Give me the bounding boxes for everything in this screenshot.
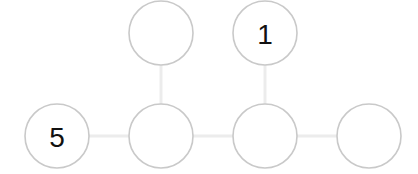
- node-bottom-3[interactable]: [233, 104, 297, 168]
- node-bottom-1[interactable]: 5: [25, 104, 89, 168]
- node-bottom-2[interactable]: [129, 104, 193, 168]
- edges: [89, 65, 337, 136]
- node-bottom-4[interactable]: [337, 104, 401, 168]
- number-diagram: 1 5: [0, 0, 418, 174]
- node-top-1[interactable]: [129, 1, 193, 65]
- node-value: 1: [257, 19, 273, 50]
- node-top-2[interactable]: 1: [233, 1, 297, 65]
- node-value: 5: [49, 122, 65, 153]
